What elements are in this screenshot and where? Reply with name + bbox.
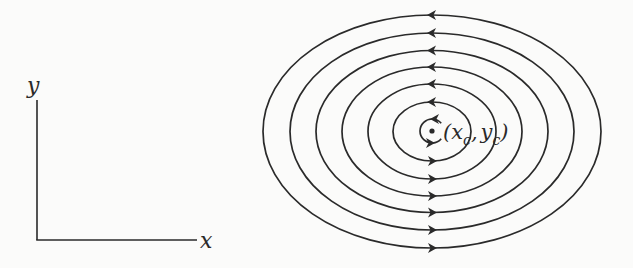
- coordinate-axes: y x: [26, 73, 213, 253]
- label-x-symbol: x: [451, 120, 463, 144]
- center-point-label: (xc,yc): [443, 120, 509, 148]
- label-y-subscript: c: [492, 132, 500, 148]
- center-point-dot: [429, 128, 434, 133]
- vortex-diagram: y x (xc,yc): [0, 0, 633, 268]
- label-separator: ,: [471, 120, 478, 144]
- label-close-paren: ): [499, 120, 508, 144]
- label-x-subscript: c: [463, 132, 471, 148]
- curl-arrow-top: [430, 114, 439, 124]
- y-axis-label: y: [26, 73, 40, 98]
- x-axis-label: x: [200, 228, 213, 253]
